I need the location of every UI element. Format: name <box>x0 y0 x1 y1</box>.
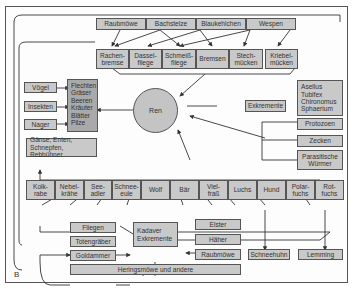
box-hund: Hund <box>257 180 286 200</box>
node-ren: Ren <box>133 88 178 133</box>
box-zecken: Zecken <box>297 135 343 147</box>
box-lemming: Lemming <box>298 249 343 260</box>
box-kolkrabe: Kolk- rabe <box>26 180 55 200</box>
box-fliegen: Fliegen <box>70 222 116 233</box>
box-wolf: Wolf <box>141 180 170 200</box>
box-voegel: Vögel <box>24 82 57 93</box>
box-wespen: Wespen <box>246 18 296 30</box>
box-dasselfliege: Dassel- fliege <box>129 49 162 69</box>
box-goldammer: Goldammer <box>70 250 116 261</box>
box-schneeeule: Schnee- eule <box>112 180 141 200</box>
box-totengraeber: Totengräber <box>70 236 116 247</box>
box-protozoen: Protozoen <box>297 118 343 130</box>
box-raubmoewe-bottom: Raubmöwe <box>195 249 241 260</box>
box-luchs: Luchs <box>228 180 257 200</box>
box-baer: Bär <box>170 180 199 200</box>
box-rachenbremse: Rachen- bremse <box>96 49 129 69</box>
box-kriebelmuecken: Kriebel- mücken <box>265 49 298 69</box>
box-gaense-enten: Gänse, Enten, Schnepfen, Rebhühner <box>26 138 97 157</box>
box-exkremente: Exkremente <box>245 100 286 112</box>
box-food-plants: Flechten Gräser Beeren Kräuter Blätter P… <box>67 79 98 132</box>
box-kadaver-exkremente: Kadaver Exkremente <box>133 222 178 247</box>
box-schmeissfliege: Schmeiß- fliege <box>162 49 196 69</box>
box-vielfrass: Viel- fraß <box>199 180 228 200</box>
box-bachstelze: Bachstelze <box>146 18 196 30</box>
box-nager: Nager <box>24 119 57 130</box>
box-stechmuecken: Stech- mücken <box>229 49 263 69</box>
box-aquatic-organisms: Asellus Tubifex Chironomus Sphaerium <box>297 80 343 116</box>
box-haeher: Häher <box>195 234 241 245</box>
box-seeadler: See- adler <box>84 180 112 200</box>
box-polarfuchs: Polar- fuchs <box>286 180 315 200</box>
box-blaukehlchen: Blaukehlchen <box>196 18 246 30</box>
box-elster: Elster <box>195 219 241 230</box>
box-raubmoewe: Raubmöwe <box>96 18 146 30</box>
panel-label: B <box>14 270 19 279</box>
box-rotfuchs: Rot- fuchs <box>315 180 344 200</box>
box-insekten: Insekten <box>24 101 57 112</box>
box-parasitische-wuermer: Parasitische Würmer <box>297 150 343 170</box>
box-bremsen: Bremsen <box>196 49 229 69</box>
box-schneehuhn: Schneehuhn <box>248 249 290 260</box>
box-heringsmoewe: Heringsmöwe und andere <box>70 264 241 275</box>
box-nebelkraehe: Nebel- krähe <box>55 180 84 200</box>
